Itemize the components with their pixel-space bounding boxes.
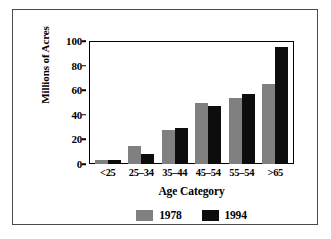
bar-1994-45–54 [208,106,221,164]
x-axis-title: Age Category [89,185,294,197]
bar-group [195,41,221,164]
x-axis-ticks: <2525–3435–4445–5455–54>65 [89,167,294,178]
legend-entry-1978: 1978 [136,209,181,221]
bar-group [262,41,288,164]
bar-group [162,41,188,164]
bar-1978-<25 [95,160,108,164]
bar-1978->65 [262,84,275,164]
y-tick-label: 80 [71,60,82,72]
bar-1978-45–54 [195,103,208,165]
chart-legend: 19781994 [89,209,294,221]
bar-1978-25–34 [128,146,141,164]
figure-border: Millions of Acres 020406080100 <2525–343… [12,9,318,225]
bar-1994-35–44 [175,128,188,164]
x-tick-label: 35–44 [160,167,190,178]
bar-1978-55–54 [229,98,242,164]
y-tick-mark [82,163,86,165]
legend-entry-1994: 1994 [202,209,247,221]
chart-figure: Millions of Acres 020406080100 <2525–343… [0,0,331,239]
x-tick-label: 25–34 [126,167,156,178]
bar-group [95,41,121,164]
y-tick-mark [82,139,86,141]
y-tick-mark [82,40,86,42]
y-tick-label: 20 [71,133,82,145]
x-tick-label: 45–54 [193,167,223,178]
legend-swatch-1978 [136,210,153,221]
bar-1994->65 [275,47,288,164]
bar-group [229,41,255,164]
y-tick-mark [82,65,86,67]
bar-1994-55–54 [242,94,255,164]
bar-1994-25–34 [141,154,154,164]
bar-groups [89,41,294,164]
bar-1978-35–44 [162,130,175,164]
y-tick-mark [82,89,86,91]
y-axis-title: Millions of Acres [39,2,51,128]
x-tick-label: 55–54 [227,167,257,178]
x-tick-label: >65 [260,167,290,178]
y-axis-ticks: 020406080100 [53,41,86,164]
y-tick-label: 100 [66,35,82,47]
x-tick-label: <25 [93,167,123,178]
legend-label-1994: 1994 [225,209,247,221]
plot-area-wrapper [89,41,294,164]
bar-group [128,41,154,164]
legend-swatch-1994 [202,210,219,221]
y-tick-label: 60 [71,84,82,96]
legend-label-1978: 1978 [159,209,181,221]
y-tick-label: 40 [71,109,82,121]
y-tick-mark [82,114,86,116]
bar-1994-<25 [108,160,121,164]
